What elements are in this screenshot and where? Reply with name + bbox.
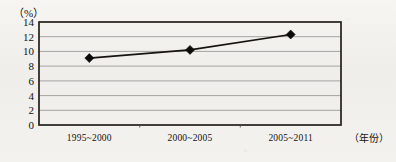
data-series xyxy=(85,30,295,63)
line-chart: （%） 14 12 10 8 6 4 2 0 1995~2000 2000~20… xyxy=(0,0,396,162)
data-point-marker-1 xyxy=(85,54,94,63)
y-tick-label-6: 6 xyxy=(29,75,35,87)
y-tick-label-10: 10 xyxy=(23,45,35,57)
x-tick-label-2000-2005: 2000~2005 xyxy=(168,133,213,143)
y-tick-label-2: 2 xyxy=(29,104,35,116)
data-point-marker-3 xyxy=(286,30,295,39)
y-tick-label-12: 12 xyxy=(23,31,34,43)
y-tick-label-14: 14 xyxy=(23,16,35,28)
x-tick-label-2005-2011: 2005~2011 xyxy=(268,133,313,143)
y-tick-label-8: 8 xyxy=(29,60,35,72)
y-tick-label-4: 4 xyxy=(29,90,35,102)
y-tick-labels: 14 12 10 8 6 4 2 0 xyxy=(23,16,35,131)
data-point-marker-2 xyxy=(186,45,195,54)
plot-area-frame xyxy=(39,22,341,125)
x-axis-unit-label: （年份） xyxy=(349,132,389,144)
x-tick-labels: 1995~2000 2000~2005 2005~2011 xyxy=(67,133,313,143)
y-tick-label-0: 0 xyxy=(29,119,35,131)
x-tick-label-1995-2000: 1995~2000 xyxy=(67,133,112,143)
